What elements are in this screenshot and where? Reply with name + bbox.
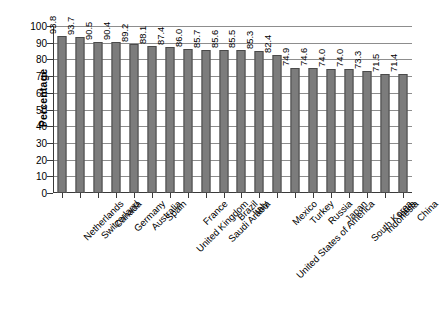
y-tick-label: 90 [21, 37, 47, 48]
bar [183, 49, 192, 193]
bar-slot: 93.7 [71, 26, 89, 193]
bar [111, 42, 120, 193]
bar [219, 50, 228, 193]
y-tick-label: 80 [21, 54, 47, 65]
bar-slot: 85.6 [215, 26, 233, 193]
bar-value-label: 88.1 [137, 26, 148, 44]
bar-value-label: 74.0 [334, 49, 345, 67]
bar-slot: 86.0 [179, 26, 197, 193]
y-tick-label: 60 [21, 87, 47, 98]
bar-value-label: 85.7 [191, 30, 202, 48]
bar [327, 69, 336, 193]
bar-value-label: 74.9 [280, 48, 291, 66]
y-tick-label: 30 [21, 137, 47, 148]
bar-value-label: 85.5 [226, 30, 237, 48]
bar-slot: 93.8 [53, 26, 71, 193]
x-tick-label: China [414, 198, 440, 224]
bar-slot: 88.1 [143, 26, 161, 193]
y-tick-label: 0 [21, 188, 47, 199]
bar-value-label: 74.6 [298, 48, 309, 66]
bar [129, 44, 138, 193]
bar [291, 68, 300, 193]
bar [57, 36, 66, 193]
bar-value-label: 90.5 [83, 22, 94, 40]
bar [147, 46, 156, 193]
bar-value-label: 93.7 [65, 16, 76, 34]
bar [165, 47, 174, 193]
bar [273, 55, 282, 193]
bar-value-label: 89.2 [119, 24, 130, 42]
bar-value-label: 73.3 [352, 50, 363, 68]
bar-slot: 87.4 [161, 26, 179, 193]
x-tick-label: Spain [163, 198, 188, 223]
bar-value-label: 74.0 [316, 49, 327, 67]
bar-value-label: 71.4 [388, 54, 399, 72]
bar-slot: 71.4 [394, 26, 412, 193]
bar-value-label: 82.4 [262, 35, 273, 53]
bar [399, 74, 408, 193]
bar-slot: 85.7 [197, 26, 215, 193]
bar [237, 50, 246, 193]
bar [309, 68, 318, 193]
bar-slot: 71.5 [376, 26, 394, 193]
bar-value-label: 85.3 [244, 30, 255, 48]
bar [75, 37, 84, 193]
bar-value-label: 87.4 [155, 27, 166, 45]
y-tick-label: 50 [21, 104, 47, 115]
bar-value-label: 85.6 [209, 30, 220, 48]
y-tick-label: 70 [21, 71, 47, 82]
bar-value-label: 90.4 [101, 22, 112, 40]
bar-slot: 73.3 [358, 26, 376, 193]
y-tick-label: 20 [21, 154, 47, 165]
y-tick-mark [47, 193, 53, 194]
bar-slot: 85.5 [233, 26, 251, 193]
y-tick-label: 40 [21, 121, 47, 132]
y-tick-label: 100 [21, 21, 47, 32]
bar-slot: 89.2 [125, 26, 143, 193]
bar [345, 69, 354, 193]
bar [255, 51, 264, 193]
y-tick-label: 10 [21, 171, 47, 182]
x-axis-labels: NetherlandsSwitzerlandCanadaGermanyAustr… [53, 198, 412, 303]
bar-slot: 90.4 [107, 26, 125, 193]
bar [93, 42, 102, 193]
bar [381, 74, 390, 193]
bar-value-label: 86.0 [173, 29, 184, 47]
bar-slot: 90.5 [89, 26, 107, 193]
bars-layer: 93.893.790.590.489.288.187.486.085.785.6… [53, 26, 412, 193]
bar [363, 71, 372, 193]
bar [201, 50, 210, 193]
bar-value-label: 93.8 [47, 16, 58, 34]
bar-value-label: 71.5 [370, 53, 381, 71]
